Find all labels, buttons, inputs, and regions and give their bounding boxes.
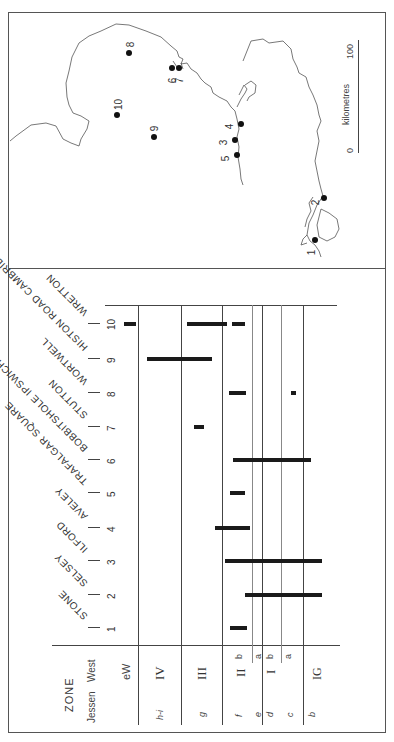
range-bar-site-10-eW bbox=[124, 322, 136, 326]
zone-west-I-a: a bbox=[283, 654, 293, 659]
zone-boundary-IIb-IIa bbox=[252, 305, 253, 663]
zone-jessen-c: c bbox=[285, 713, 295, 718]
site-2-tick bbox=[88, 594, 100, 595]
site-10-tick bbox=[88, 323, 100, 324]
range-bar-site-5 bbox=[230, 491, 245, 495]
map-site-8 bbox=[126, 50, 132, 56]
map-site-4-label: 4 bbox=[224, 124, 235, 130]
zone-boundary-eW-IV bbox=[138, 305, 139, 725]
zone-west-II-a: a bbox=[253, 654, 263, 659]
site-7-number: 7 bbox=[106, 425, 117, 431]
range-bar-site-10-III bbox=[187, 322, 227, 326]
map-site-7-label: 7 bbox=[174, 78, 185, 84]
range-bar-site-3 bbox=[225, 559, 322, 563]
site-6-tick bbox=[88, 459, 100, 460]
range-bar-site-4 bbox=[215, 526, 250, 530]
zone-west-eW: eW bbox=[120, 664, 132, 681]
zone-jessen-d: d bbox=[265, 712, 275, 717]
zone-jessen-h-i: h-i bbox=[155, 710, 165, 720]
map-site-7 bbox=[176, 65, 182, 71]
site-1-number: 1 bbox=[106, 626, 117, 632]
site-5-tick bbox=[88, 492, 100, 493]
chart-header-line bbox=[52, 645, 340, 646]
site-1-tick bbox=[88, 627, 100, 628]
range-bar-site-2 bbox=[245, 593, 322, 597]
range-bar-site-6 bbox=[233, 458, 311, 462]
site-4-number: 4 bbox=[106, 526, 117, 532]
site-7-tick bbox=[88, 426, 100, 427]
map-site-9-label: 9 bbox=[149, 126, 160, 132]
map-site-5 bbox=[234, 152, 240, 158]
site-6-number: 6 bbox=[106, 458, 117, 464]
map-site-8-label: 8 bbox=[125, 42, 136, 48]
zone-west-II: II bbox=[233, 668, 249, 677]
site-8-number: 8 bbox=[106, 391, 117, 397]
zone-west-IV: IV bbox=[152, 666, 168, 680]
site-5-number: 5 bbox=[106, 491, 117, 497]
range-bar-site-1 bbox=[230, 626, 247, 630]
zone-jessen-e: e bbox=[253, 712, 263, 717]
zone-west-II-b: b bbox=[234, 654, 244, 659]
site-3-number: 3 bbox=[106, 559, 117, 565]
range-bar-site-8-I bbox=[291, 391, 296, 395]
zone-boundary-II-I bbox=[262, 305, 263, 725]
map-site-4 bbox=[238, 121, 244, 127]
zone-west-I-b: b bbox=[265, 654, 275, 659]
zone-west-III: III bbox=[194, 667, 210, 680]
zone-boundary-III-II bbox=[222, 305, 223, 725]
site-9-number: 9 bbox=[106, 357, 117, 363]
zone-jessen-b: b bbox=[307, 712, 317, 717]
scale-bar bbox=[358, 40, 359, 153]
header-west-label: West bbox=[86, 659, 97, 682]
site-2-number: 2 bbox=[106, 593, 117, 599]
map-site-6 bbox=[169, 65, 175, 71]
range-bar-site-9 bbox=[147, 357, 212, 361]
zone-jessen-g: g bbox=[197, 712, 207, 717]
map-site-2-label: 2 bbox=[310, 200, 321, 206]
map-site-3-label: 3 bbox=[218, 140, 229, 146]
map-site-2 bbox=[321, 195, 327, 201]
zone-boundary-I-IG bbox=[303, 305, 304, 725]
scale-bar-label: kilometres bbox=[341, 84, 351, 125]
zone-west-I: I bbox=[263, 670, 279, 674]
range-bar-site-8-II bbox=[229, 391, 246, 395]
zone-jessen-f: f bbox=[234, 714, 244, 717]
map-panel: kilometres 0 100 8 6 7 10 9 4 3 5 2 1 bbox=[8, 12, 386, 269]
map-site-10 bbox=[114, 112, 120, 118]
site-9-tick bbox=[88, 358, 100, 359]
zone-west-IG: IG bbox=[310, 667, 325, 680]
map-site-1-label: 1 bbox=[306, 250, 317, 256]
map-site-9 bbox=[151, 134, 157, 140]
zone-boundary-Ib-Ia bbox=[281, 305, 282, 663]
map-site-1 bbox=[312, 237, 318, 243]
header-jessen-label: Jessen bbox=[86, 691, 97, 723]
map-site-3 bbox=[232, 137, 238, 143]
site-3-tick bbox=[88, 560, 100, 561]
zone-boundary-IV-III bbox=[181, 305, 182, 725]
scale-bar-start: 0 bbox=[345, 148, 355, 153]
range-bar-site-10-II bbox=[232, 322, 245, 326]
map-site-10-label: 10 bbox=[113, 99, 124, 110]
header-zone-label: ZONE bbox=[63, 677, 75, 712]
coastline-map bbox=[9, 13, 387, 270]
site-8-tick bbox=[88, 392, 100, 393]
site-4-tick bbox=[88, 527, 100, 528]
range-bar-site-7 bbox=[194, 425, 204, 429]
site-10-number: 10 bbox=[106, 319, 117, 330]
scale-bar-end: 100 bbox=[345, 44, 355, 59]
map-site-5-label: 5 bbox=[220, 156, 231, 162]
